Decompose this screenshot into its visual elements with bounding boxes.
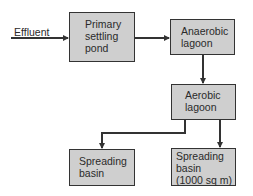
node-label: Spreading basin	[79, 155, 127, 179]
node-aerobic-lagoon: Aerobic lagoon	[171, 84, 236, 120]
arrow-aerobic-to-spreading1	[102, 120, 185, 148]
node-primary-settling-pond: Primary settling pond	[69, 12, 135, 62]
effluent-label: Effluent	[14, 26, 49, 38]
node-label: Aerobic lagoon	[185, 89, 221, 113]
node-spreading-basin: Spreading basin	[69, 149, 135, 186]
node-label: Primary settling pond	[85, 18, 121, 54]
node-label: Anaerobic lagoon	[181, 25, 228, 49]
node-anaerobic-lagoon: Anaerobic lagoon	[170, 19, 235, 55]
node-spreading-basin-1000sqm: Spreading basin (1000 sq m)	[171, 148, 236, 186]
node-label: Spreading basin (1000 sq m)	[176, 150, 232, 186]
